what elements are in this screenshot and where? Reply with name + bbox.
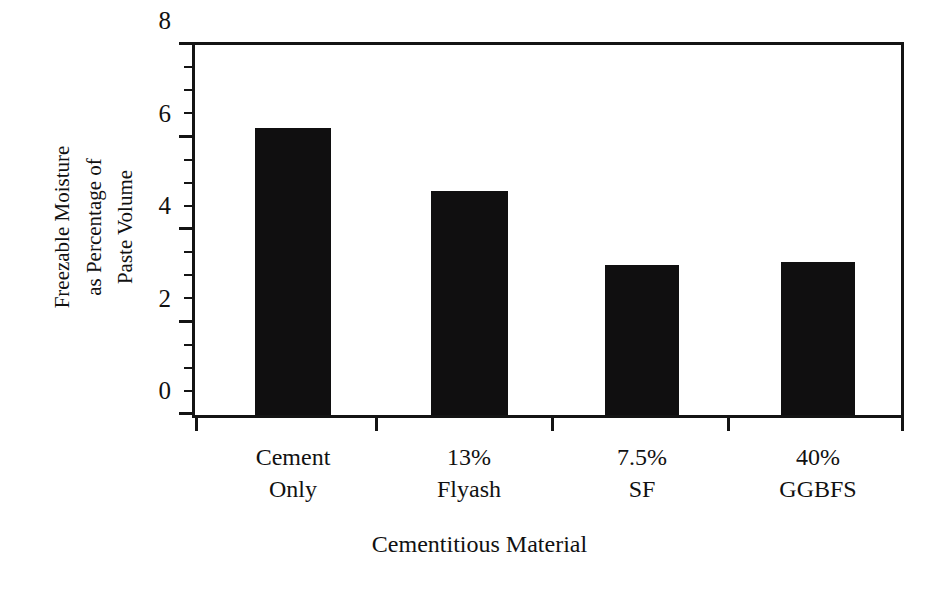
x-category-label-2-line-2: SF — [617, 474, 667, 506]
x-category-label-0-line-2: Only — [256, 474, 331, 506]
x-category-label-0-line-1: Cement — [256, 442, 331, 474]
plot-area: 0 2 4 6 8 Cement — [192, 42, 904, 418]
y-tick-label-4: 4 — [159, 193, 172, 218]
x-category-label-3-line-1: 40% — [779, 442, 856, 474]
x-category-label-0: Cement Only — [256, 442, 331, 505]
y-tick-minor-3 — [184, 274, 192, 276]
x-category-label-2-line-1: 7.5% — [617, 442, 667, 474]
x-tick-4 — [901, 418, 904, 431]
y-tick-minor-3-5 — [184, 251, 192, 253]
x-tick-3 — [727, 418, 730, 431]
y-axis-title-line-2: as Percentage of — [78, 146, 110, 309]
x-category-label-3-line-2: GGBFS — [779, 474, 856, 506]
x-tick-2 — [551, 418, 554, 431]
bar-7-5-sf — [605, 265, 679, 415]
y-tick-major-8 — [179, 42, 192, 45]
y-tick-major-6 — [179, 135, 192, 138]
y-tick-minor-7-5 — [184, 66, 192, 68]
x-axis-title-text: Cementitious Material — [372, 531, 587, 558]
y-tick-minor-2-5 — [184, 297, 192, 299]
y-tick-label-6: 6 — [159, 100, 172, 125]
x-category-label-2: 7.5% SF — [617, 442, 667, 505]
x-tick-1 — [375, 418, 378, 431]
x-axis-title: Cementitious Material — [0, 531, 931, 558]
y-tick-label-8: 8 — [159, 8, 172, 33]
y-tick-major-0 — [179, 412, 192, 415]
y-tick-minor-1-5 — [184, 344, 192, 346]
y-tick-major-2 — [179, 320, 192, 323]
x-tick-0 — [195, 418, 198, 431]
y-tick-label-0: 0 — [159, 378, 172, 403]
x-category-label-1: 13% Flyash — [437, 442, 501, 505]
y-tick-minor-5-5 — [184, 159, 192, 161]
figure: Freezable Moisture as Percentage of Past… — [0, 0, 931, 594]
y-tick-minor-5 — [184, 182, 192, 184]
bar-40-ggbfs — [781, 262, 855, 415]
y-tick-major-4 — [179, 227, 192, 230]
y-axis-title-line-1: Freezable Moisture — [47, 146, 79, 309]
y-tick-minor-7 — [184, 89, 192, 91]
bar-cement-only — [255, 128, 331, 415]
x-category-label-1-line-1: 13% — [437, 442, 501, 474]
y-tick-minor-6-5 — [184, 112, 192, 114]
y-tick-minor-4-5 — [184, 205, 192, 207]
y-tick-minor-1 — [184, 367, 192, 369]
bar-13-flyash — [431, 191, 508, 415]
x-category-label-3: 40% GGBFS — [779, 442, 856, 505]
y-tick-minor-0-5 — [184, 390, 192, 392]
y-axis-title: Freezable Moisture as Percentage of Past… — [26, 42, 162, 412]
y-axis-title-line-3: Paste Volume — [110, 146, 142, 309]
x-category-label-1-line-2: Flyash — [437, 474, 501, 506]
y-tick-label-2: 2 — [159, 285, 172, 310]
